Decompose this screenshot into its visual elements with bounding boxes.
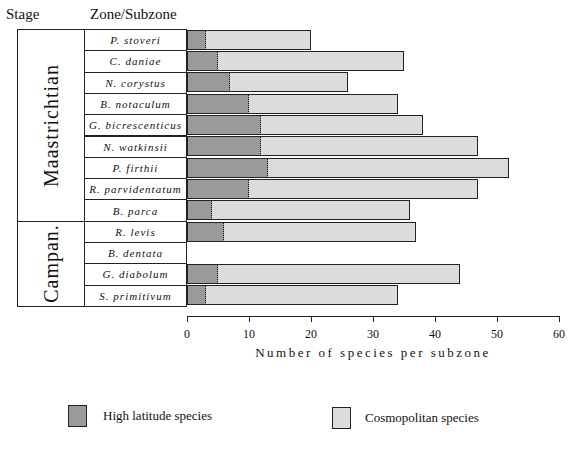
bar-high-latitude bbox=[187, 179, 249, 199]
stage-cell-campan: Campan. bbox=[17, 221, 84, 307]
x-tick bbox=[559, 316, 560, 322]
bar-cosmopolitan bbox=[187, 51, 404, 71]
zone-label: P. stoveri bbox=[84, 29, 187, 51]
zone-label: P. firthii bbox=[84, 157, 187, 179]
bar-high-latitude bbox=[187, 222, 224, 242]
bar-high-latitude bbox=[187, 158, 268, 178]
stage-label: Maastrichtian bbox=[18, 30, 84, 221]
zone-label: S. primitivum bbox=[84, 285, 187, 307]
x-axis-label: Number of species per subzone bbox=[187, 345, 559, 361]
bar-high-latitude bbox=[187, 136, 261, 156]
zone-label: R. parvidentatum bbox=[84, 178, 187, 200]
bar-high-latitude bbox=[187, 264, 218, 284]
bar-cosmopolitan bbox=[187, 30, 311, 50]
bar-cosmopolitan bbox=[187, 264, 460, 284]
x-tick-label: 10 bbox=[243, 327, 255, 342]
x-tick bbox=[311, 316, 312, 322]
zone-label: C. daniae bbox=[84, 50, 187, 72]
x-tick bbox=[435, 316, 436, 322]
zone-label: G. bicrescenticus bbox=[84, 114, 187, 136]
legend-high-latitude-label: High latitude species bbox=[103, 408, 212, 424]
x-tick bbox=[187, 316, 188, 322]
bar-high-latitude bbox=[187, 94, 249, 114]
zone-label: N. corystus bbox=[84, 72, 187, 94]
bar-high-latitude bbox=[187, 51, 218, 71]
bar-cosmopolitan bbox=[187, 285, 398, 305]
zone-label: N. watkinsii bbox=[84, 136, 187, 158]
bar-high-latitude bbox=[187, 285, 206, 305]
x-tick-label: 40 bbox=[429, 327, 441, 342]
x-tick bbox=[373, 316, 374, 322]
bar-high-latitude bbox=[187, 115, 261, 135]
x-tick bbox=[249, 316, 250, 322]
zone-label: R. levis bbox=[84, 221, 187, 243]
stage-header: Stage bbox=[6, 6, 39, 23]
legend-high-latitude-swatch bbox=[68, 405, 87, 427]
bar-high-latitude bbox=[187, 72, 230, 92]
bar-high-latitude bbox=[187, 200, 212, 220]
stage-cell-maastrichtian: Maastrichtian bbox=[17, 29, 84, 222]
bar-high-latitude bbox=[187, 30, 206, 50]
x-tick-label: 60 bbox=[553, 327, 565, 342]
x-tick-label: 50 bbox=[491, 327, 503, 342]
zone-label: B. dentata bbox=[84, 242, 187, 264]
x-tick-label: 30 bbox=[367, 327, 379, 342]
x-tick-label: 20 bbox=[305, 327, 317, 342]
x-tick-label: 0 bbox=[184, 327, 190, 342]
zone-header: Zone/Subzone bbox=[90, 6, 177, 23]
zone-label: B. notaculum bbox=[84, 93, 187, 115]
zone-label: G. diabolum bbox=[84, 263, 187, 285]
stage-text: Campan. bbox=[40, 224, 63, 303]
bar-cosmopolitan bbox=[187, 200, 410, 220]
zone-label: B. parca bbox=[84, 199, 187, 221]
legend-cosmopolitan-swatch bbox=[332, 407, 351, 429]
x-tick bbox=[497, 316, 498, 322]
stage-label: Campan. bbox=[18, 222, 84, 306]
legend-cosmopolitan-label: Cosmopolitan species bbox=[365, 410, 479, 426]
stage-text: Maastrichtian bbox=[40, 64, 63, 187]
